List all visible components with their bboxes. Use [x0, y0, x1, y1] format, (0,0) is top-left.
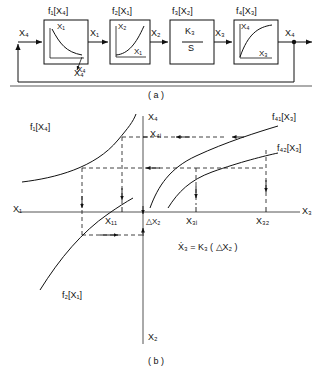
axis-ticks [122, 137, 266, 212]
signal-label-input-x4: X₄ [19, 28, 29, 38]
panel-b-caption: ( b ) [148, 356, 164, 366]
curve-label-f2: f₂[X₁] [62, 290, 82, 300]
diagram-canvas [0, 0, 322, 377]
block-f3-denominator: S [188, 43, 194, 53]
block-f1-title: f₁[X₄] [48, 6, 68, 16]
tick-label-delta-x2: △X₂ [146, 217, 160, 226]
tick-label-x32: X₃₂ [256, 216, 269, 226]
tick-label-x3i: X₃ᵢ [186, 216, 197, 226]
panel-b-quadrant-plot [18, 114, 300, 344]
curve-label-f42: f₄₂[X₃] [277, 143, 301, 153]
axis-label-x4: X₄ [148, 112, 158, 122]
signal-label-x2: X₂ [151, 28, 161, 38]
panel-a-caption: ( a ) [148, 90, 164, 100]
curve-label-f1: f₁[X₄] [30, 122, 50, 132]
figure-control-system-diagram: f₁[X₄] f₂[X₁] f₃[X₂] f₄[X₃] X₁ X₄ X₂ X₁ … [0, 0, 322, 377]
block-f2 [110, 20, 150, 64]
axis-label-x2: X₂ [148, 332, 158, 342]
tick-label-x4i: X₄ᵢ [150, 129, 161, 139]
axis-label-x1: X₁ [13, 204, 22, 214]
block-f3-numerator: K₃ [185, 26, 195, 36]
block-f2-yaxis-label: X₂ [118, 22, 126, 31]
block-f1-feedback-label-x4: X₄ [74, 68, 84, 78]
tick-label-x11: X₁₁ [105, 216, 117, 226]
block-f4-yaxis-label: X₄ [241, 22, 250, 31]
block-f2-title: f₂[X₁] [112, 6, 132, 16]
feedback-path [18, 42, 294, 82]
curve-f42 [168, 153, 278, 208]
signal-label-x1: X₁ [90, 28, 99, 38]
block-f1 [44, 20, 88, 64]
equation-x3-dot: Ẋ₃ = K₃ ( △X₂ ) [178, 242, 238, 252]
block-f2-xaxis-label: X₁ [134, 47, 142, 56]
block-f4-xaxis-label: X₃ [259, 49, 268, 58]
block-f4-title: f₄[X₃] [236, 6, 257, 16]
block-f3-title: f₃[X₂] [172, 6, 193, 16]
axis-label-x3: X₃ [302, 206, 312, 216]
signal-label-output-x4: X₄ [285, 28, 295, 38]
curve-label-f41: f₄₁[X₃] [272, 112, 296, 122]
signal-label-x3: X₃ [215, 28, 225, 38]
block-f1-yaxis-label: X₁ [57, 22, 65, 31]
curve-f41 [150, 126, 278, 208]
